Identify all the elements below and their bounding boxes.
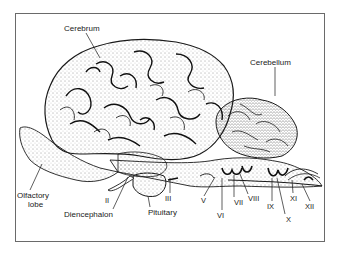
label-cerebrum: Cerebrum [64,24,100,33]
label-pituitary: Pituitary [148,208,177,217]
label-nerve-VIII: VIII [248,194,259,203]
label-nerve-VII: VII [234,198,243,207]
label-nerve-XI: XI [290,194,297,203]
label-nerve-V: V [201,196,206,205]
label-diencephalon: Diencephalon [64,210,113,219]
optic-nerve-shape [108,176,134,191]
label-nerve-VI: VI [217,211,224,220]
label-nerve-X: X [286,215,291,224]
label-nerve-III: III [165,194,171,203]
label-nerve-II: II [105,196,109,205]
cerebrum-shape [45,39,233,159]
label-olfactory-lobe-line1: Olfactory [17,191,49,200]
label-nerve-XII: XII [305,202,314,211]
label-cerebellum: Cerebellum [250,58,291,67]
pituitary-shape [133,173,166,197]
label-olfactory-lobe-line2: lobe [28,200,43,209]
label-nerve-IX: IX [267,202,274,211]
